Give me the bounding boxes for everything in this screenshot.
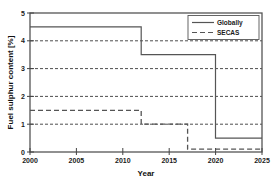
y-tick-label-0: 0 bbox=[21, 149, 25, 156]
y-tick-label-1: 1 bbox=[21, 121, 25, 128]
chart-canvas: 5 4 3 2 1 0 2000 2005 2010 2015 2020 202… bbox=[0, 0, 274, 181]
x-tick-label-2015: 2015 bbox=[161, 157, 177, 164]
legend-label-globally: Globally bbox=[217, 19, 243, 27]
x-tick-label-2005: 2005 bbox=[69, 157, 85, 164]
legend-label-secas: SECAS bbox=[217, 29, 240, 36]
y-tick-label-5: 5 bbox=[21, 10, 25, 17]
x-tick-label-2020: 2020 bbox=[208, 157, 224, 164]
y-tick-label-2: 2 bbox=[21, 93, 25, 100]
x-axis-title: Year bbox=[138, 169, 155, 178]
x-tick-label-2000: 2000 bbox=[22, 157, 38, 164]
y-axis-title: Fuel sulphur content [%] bbox=[6, 35, 15, 129]
y-tick-label-3: 3 bbox=[21, 65, 25, 72]
x-tick-label-2010: 2010 bbox=[115, 157, 131, 164]
x-tick-label-2025: 2025 bbox=[254, 157, 270, 164]
chart-figure: 5 4 3 2 1 0 2000 2005 2010 2015 2020 202… bbox=[0, 0, 274, 181]
y-tick-label-4: 4 bbox=[21, 37, 25, 44]
chart-legend[interactable]: Globally SECAS bbox=[188, 16, 259, 40]
